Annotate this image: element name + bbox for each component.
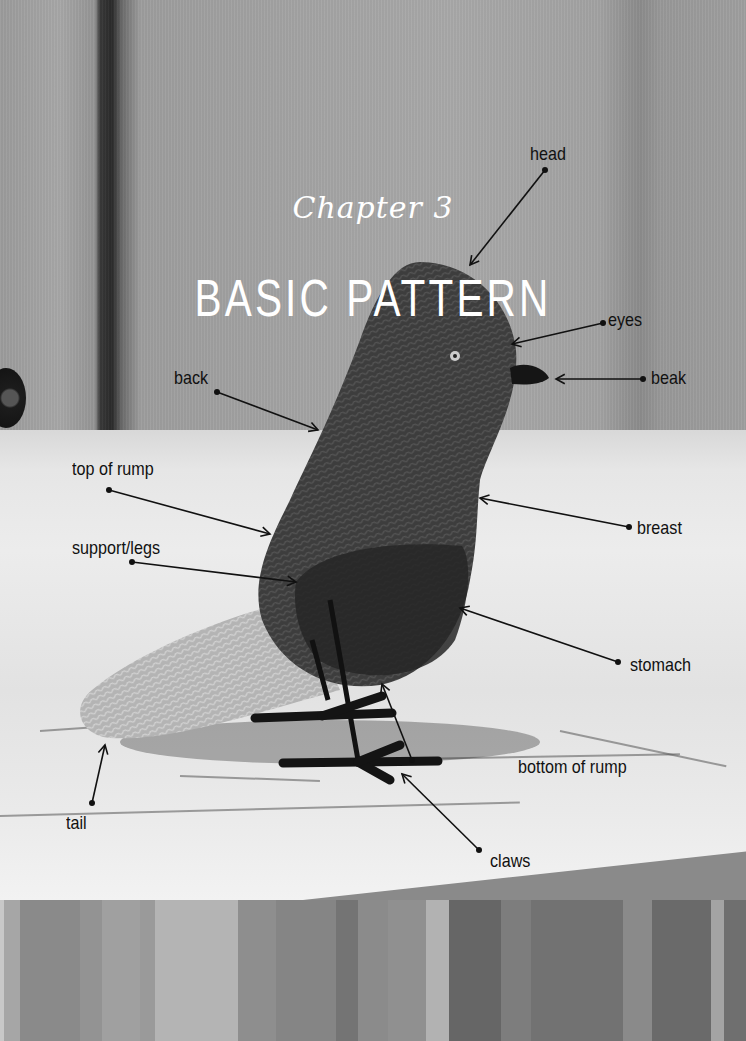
label-bottom-of-rump: bottom of rump [518, 756, 627, 778]
label-breast: breast [637, 517, 682, 539]
label-back: back [174, 367, 208, 389]
bird-beak [510, 365, 549, 385]
book-page: Chapter 3 BASIC PATTERN head eyes beak b… [0, 0, 746, 1041]
knitted-bird-illustration [0, 0, 746, 1041]
label-claws: claws [490, 850, 530, 872]
label-stomach: stomach [630, 654, 691, 676]
page-title: BASIC PATTERN [82, 268, 664, 328]
chapter-heading: Chapter 3 [0, 190, 746, 225]
label-tail: tail [66, 812, 87, 834]
label-head: head [530, 143, 566, 165]
bird-wing [295, 544, 468, 675]
label-top-of-rump: top of rump [72, 458, 154, 480]
label-support-legs: support/legs [72, 537, 160, 559]
label-beak: beak [651, 367, 686, 389]
label-eyes: eyes [608, 309, 642, 331]
